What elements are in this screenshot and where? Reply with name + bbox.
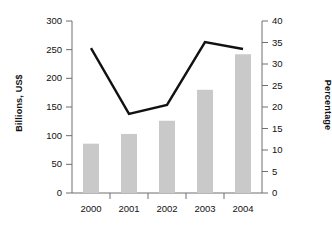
bar-2000 [83,144,99,193]
chart-figure: Billions, US$ Percentage 050100150200250… [0,0,332,228]
y-axis-right-tick-30: 30 [272,59,304,69]
y-axis-right-tick-40: 40 [272,16,304,26]
y-axis-right-tick-15: 15 [272,124,304,134]
x-axis-tick-2002: 2002 [147,204,187,214]
y-axis-right-tick-25: 25 [272,81,304,91]
x-axis-tick-2004: 2004 [223,204,263,214]
y-axis-right-tick-35: 35 [272,38,304,48]
bar-2004 [235,54,251,193]
y-axis-left-tick-150: 150 [30,102,62,112]
y-axis-left-tick-250: 250 [30,45,62,55]
x-axis-tick-2000: 2000 [71,204,111,214]
line-series [91,42,243,114]
y-axis-right-tick-5: 5 [272,167,304,177]
bar-2001 [121,134,137,193]
bar-2002 [159,121,175,193]
y-axis-right-tick-0: 0 [272,188,304,198]
y-axis-right-tick-10: 10 [272,145,304,155]
x-axis-tick-2003: 2003 [185,204,225,214]
y-axis-left-tick-50: 50 [30,159,62,169]
y-axis-left-tick-100: 100 [30,131,62,141]
y-axis-left-tick-300: 300 [30,16,62,26]
y-axis-right-tick-20: 20 [272,102,304,112]
bar-series [83,54,251,193]
y-axis-left-tick-200: 200 [30,73,62,83]
bar-2003 [197,90,213,193]
x-axis-tick-2001: 2001 [109,204,149,214]
percentage-line [91,42,243,114]
y-axis-left-tick-0: 0 [30,188,62,198]
